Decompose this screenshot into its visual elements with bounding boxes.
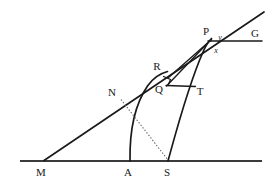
label-point-r: R: [153, 60, 161, 72]
label-point-s: S: [164, 166, 170, 178]
diagram-canvas: M A S N Q T R P G y x: [0, 0, 278, 184]
geometry-diagram: M A S N Q T R P G y x: [0, 0, 278, 184]
arc-s-to-p: [168, 39, 212, 162]
label-point-t: T: [197, 85, 204, 97]
label-point-a: A: [124, 166, 132, 178]
label-point-p: P: [203, 25, 209, 37]
label-angle-y: y: [217, 33, 222, 42]
dotted-line-n-s: [121, 100, 168, 161]
label-point-m: M: [36, 166, 46, 178]
label-point-n: N: [108, 86, 116, 98]
ray-m-upper: [44, 12, 264, 161]
label-point-q: Q: [155, 83, 163, 95]
right-angle-marker-q: [164, 77, 171, 86]
label-point-g: G: [251, 27, 259, 39]
label-angle-x: x: [213, 46, 218, 55]
segment-r-p: [169, 40, 212, 78]
